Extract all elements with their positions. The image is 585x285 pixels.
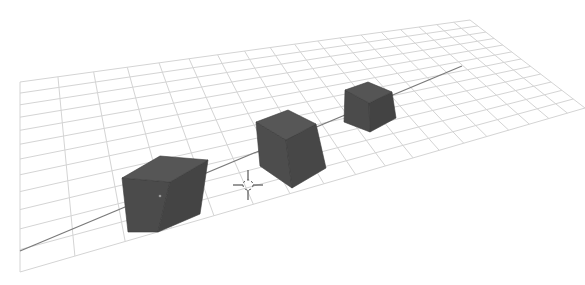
- grid-line: [454, 22, 568, 113]
- scene-objects[interactable]: [122, 82, 396, 232]
- grid-line: [470, 20, 585, 108]
- 3d-viewport[interactable]: [0, 0, 585, 285]
- object-origin-dot: [159, 195, 162, 198]
- grid-line: [20, 32, 486, 105]
- x-axis: [20, 66, 462, 251]
- grid-line: [94, 72, 126, 242]
- 3d-cursor-icon[interactable]: [233, 170, 263, 200]
- cube-middle[interactable]: [256, 110, 326, 188]
- cube-near[interactable]: [122, 156, 208, 232]
- grid-line: [381, 32, 487, 136]
- viewport-scene[interactable]: [0, 0, 585, 285]
- cube-far[interactable]: [344, 82, 396, 132]
- grid-line: [20, 38, 494, 117]
- x-axis-line: [20, 66, 462, 251]
